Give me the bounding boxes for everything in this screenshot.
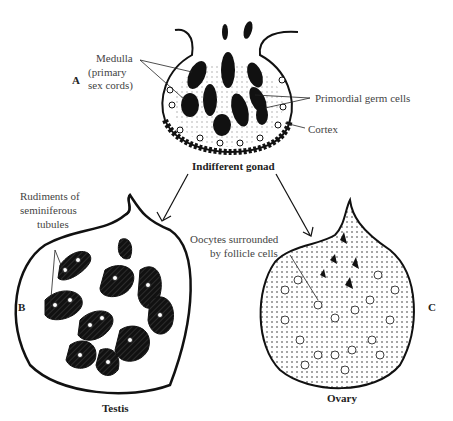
- label-medulla: Medulla: [96, 52, 133, 64]
- title-indifferent-gonad: Indifferent gonad: [192, 160, 275, 172]
- panel-letter-c: C: [428, 301, 436, 313]
- title-ovary: Ovary: [327, 392, 357, 404]
- label-oocytes-line2: by follicle cells: [210, 247, 278, 259]
- title-testis: Testis: [102, 402, 129, 414]
- label-cortex: Cortex: [308, 123, 338, 135]
- label-primordial-germ-cells: Primordial germ cells: [315, 92, 410, 104]
- label-rudiments: Rudiments of: [20, 190, 80, 202]
- indifferent-gonad-drawing: [162, 20, 298, 152]
- label-oocytes: Oocytes surrounded: [190, 233, 278, 245]
- panel-letter-b: B: [18, 301, 25, 313]
- label-medulla-line2: (primary: [88, 66, 126, 78]
- panel-letter-a: A: [72, 74, 80, 86]
- label-rudiments-line2: seminiferous: [20, 204, 77, 216]
- label-rudiments-line3: tubules: [37, 218, 69, 230]
- development-arrows: [157, 174, 313, 236]
- ovary-drawing: [261, 200, 414, 388]
- label-medulla-line3: sex cords): [88, 79, 133, 91]
